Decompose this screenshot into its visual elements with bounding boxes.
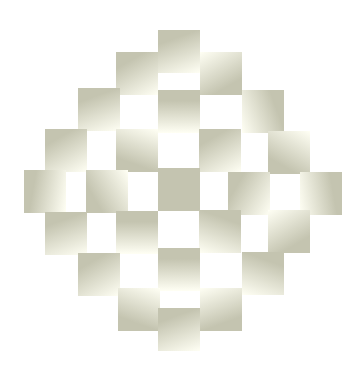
gradient-tile xyxy=(228,172,270,215)
gradient-tile xyxy=(268,131,310,174)
gradient-tile xyxy=(300,172,342,215)
gradient-tile xyxy=(45,129,87,172)
gradient-tile xyxy=(86,170,128,213)
gradient-tile xyxy=(199,210,241,253)
gradient-tile xyxy=(158,168,200,211)
gradient-tile xyxy=(199,129,241,172)
gradient-tile xyxy=(242,90,284,133)
gradient-tile xyxy=(116,52,158,95)
gradient-tile xyxy=(158,90,200,133)
gradient-tile xyxy=(116,129,158,172)
gradient-tile xyxy=(242,252,284,295)
tile-diamond-figure xyxy=(0,0,362,374)
gradient-tile xyxy=(118,288,160,331)
gradient-tile xyxy=(116,211,158,254)
gradient-tile xyxy=(200,288,242,331)
gradient-tile xyxy=(45,212,87,255)
gradient-tile xyxy=(158,30,200,73)
gradient-tile xyxy=(158,248,200,291)
gradient-tile xyxy=(78,253,120,296)
gradient-tile xyxy=(200,52,242,95)
gradient-tile xyxy=(78,88,120,131)
gradient-tile xyxy=(24,170,66,213)
gradient-tile xyxy=(268,210,310,253)
gradient-tile xyxy=(158,308,200,351)
